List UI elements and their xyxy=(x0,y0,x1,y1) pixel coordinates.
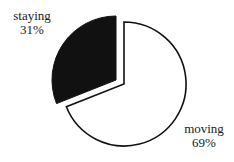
label-moving-pct: 69% xyxy=(176,136,232,150)
label-moving: moving 69% xyxy=(176,122,232,150)
label-staying-pct: 31% xyxy=(6,23,58,37)
label-moving-name: moving xyxy=(176,122,232,136)
label-staying: staying 31% xyxy=(6,9,58,37)
label-staying-name: staying xyxy=(6,9,58,23)
